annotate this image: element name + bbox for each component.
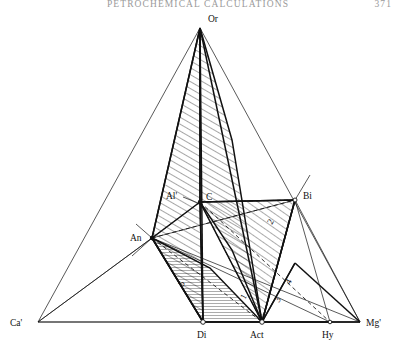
marker-Di [201,320,206,325]
prism-left-face [152,28,203,322]
label-Di: Di [197,330,207,340]
label-Mg: Mg' [366,318,381,328]
marker-C [198,200,202,204]
marker-Hy [328,320,332,324]
label-An: An [130,233,142,243]
label-Or: Or [208,14,219,24]
region-number-4: 4 [283,277,294,286]
edge-An-Ca [38,238,152,322]
label-Al: Al' [166,191,178,201]
label-Bi: Bi [303,191,312,201]
marker-Bi [293,198,297,202]
figure-page: PETROCHEMICAL CALCULATIONS 371 [0,0,396,351]
edge-Bi-Mg [295,200,360,322]
phase-diagram-svg: Or Ca' Mg' Di Act Hy An C Bi Al' 1 2 3 4… [0,0,396,351]
marker-Act [260,320,265,325]
label-Ca: Ca' [10,318,23,328]
marker-An [150,236,154,240]
label-C: C [206,192,212,202]
label-Act: Act [250,330,264,340]
edge-Bi-Hy [295,200,330,322]
label-Hy: Hy [322,330,334,340]
